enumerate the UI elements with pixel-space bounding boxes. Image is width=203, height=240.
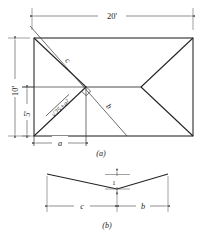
label-c: c (63, 56, 72, 65)
label-hypotenuse: √25+a² (46, 94, 75, 122)
overall-width-dimension: 20' (32, 8, 193, 30)
profile-slope-left (47, 174, 117, 189)
panel-a-plan-view: 20' 10' 5' (8, 8, 193, 158)
b-run-dimension: b (119, 199, 167, 211)
overall-width-label: 20' (107, 12, 117, 21)
c-run-label: c (80, 202, 84, 211)
c-run-dimension: c (49, 199, 116, 211)
overall-height-label: 10' (11, 86, 20, 96)
half-height-dimension: 5' (21, 87, 34, 136)
b-run-label: b (141, 202, 145, 211)
hip-rafter-bottom-right (141, 87, 193, 136)
a-dimension-label: a (58, 139, 62, 148)
hip-rafter-top-right (141, 38, 193, 87)
hip-rafter-top-left (34, 38, 86, 87)
figure-root: 20' 10' 5' (0, 0, 203, 240)
profile-slope-right (117, 174, 168, 189)
caption-panel-a: (a) (96, 149, 106, 158)
caption-panel-b: (b) (102, 221, 112, 230)
a-dimension: a (36, 136, 85, 148)
construction-diagonal-cb (30, 26, 127, 136)
half-height-label: 5' (23, 111, 32, 117)
label-b: b (104, 102, 113, 111)
unit-rise-dimension: 1 (105, 172, 130, 191)
unit-rise-label: 1 (112, 179, 115, 186)
svg-text:√25+a²: √25+a² (50, 98, 72, 119)
panel-b-profile-view: 1 c b (b) (47, 172, 168, 230)
technical-drawing-canvas: 20' 10' 5' (0, 0, 203, 240)
